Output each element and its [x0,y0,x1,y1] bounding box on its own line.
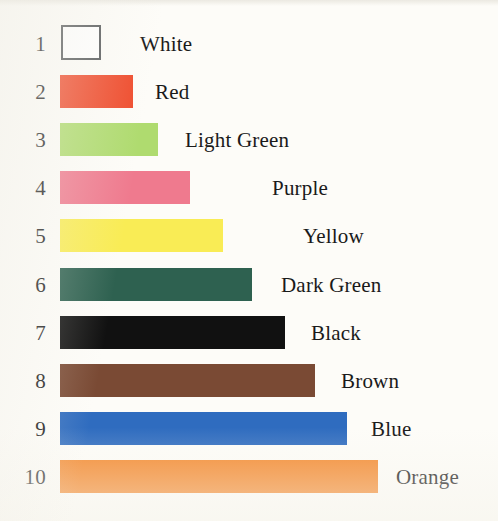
rank-number: 4 [8,168,46,208]
bar-label: Blue [371,409,411,449]
color-ranking-bar-chart: 1White2Red3Light Green4Purple5Yellow6Dar… [0,0,498,521]
rank-number: 3 [8,120,46,160]
bar-label: Dark Green [281,265,382,305]
bar-label: Brown [341,361,399,401]
bar-label: Light Green [185,120,289,160]
bar-purple [60,171,190,204]
bar-label: Red [155,72,189,112]
bar-label: Purple [272,168,328,208]
rank-number: 6 [8,265,46,305]
bar-black [60,316,285,349]
bar-yellow [60,219,223,252]
chart-row: 5Yellow [0,216,498,256]
chart-row: 2Red [0,72,498,112]
bar-label: White [140,24,192,64]
rank-number: 5 [8,216,46,256]
bar-dark-green [60,268,252,301]
rank-number: 9 [8,409,46,449]
bar-white [61,25,101,60]
rank-number: 2 [8,72,46,112]
bar-blue [60,412,347,445]
chart-row: 1White [0,24,498,64]
rank-number: 1 [8,24,46,64]
bar-label: Black [311,313,361,353]
rank-number: 7 [8,313,46,353]
rank-number: 8 [8,361,46,401]
bar-red [60,75,133,108]
bar-orange [60,460,378,493]
chart-row: 9Blue [0,409,498,449]
chart-row: 8Brown [0,361,498,401]
bar-label: Yellow [303,216,364,256]
chart-row: 7Black [0,313,498,353]
bar-brown [60,364,315,397]
chart-row: 6Dark Green [0,265,498,305]
chart-row: 3Light Green [0,120,498,160]
rank-number: 10 [8,457,46,497]
chart-row: 10Orange [0,457,498,497]
bar-light-green [60,123,158,156]
bar-label: Orange [396,457,459,497]
chart-row: 4Purple [0,168,498,208]
